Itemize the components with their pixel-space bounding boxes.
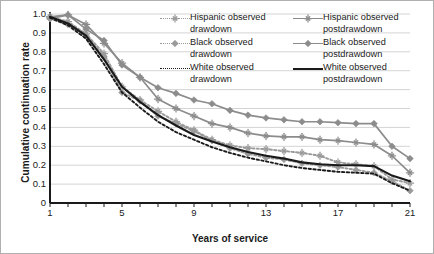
legend-swatch-white-draw xyxy=(160,63,190,74)
data-point-marker xyxy=(299,118,306,125)
legend-label-white-post: White observedpostdrawdown xyxy=(323,62,387,85)
legend-swatch-black-post xyxy=(293,38,323,49)
legend-label-black-draw: Black observeddrawdown xyxy=(190,37,253,60)
legend-marker-hispanic-draw xyxy=(160,13,190,24)
data-point-marker xyxy=(263,115,270,122)
data-point-marker xyxy=(172,40,179,47)
legend-swatch-black-draw xyxy=(160,38,190,49)
x-axis-title: Years of service xyxy=(50,233,410,244)
x-axis-tick-label: 1 xyxy=(35,208,65,218)
legend-line-white-post xyxy=(293,68,323,70)
data-point-marker xyxy=(353,120,360,127)
legend-item-black-post: Black observedpostdrawdown xyxy=(293,37,428,62)
x-axis-tick-label: 13 xyxy=(251,208,281,218)
legend-label-black-post: Black observedpostdrawdown xyxy=(323,37,386,60)
legend-label-line1: White observed xyxy=(323,62,387,74)
chart-container: Cumulative continuation rate 00.10.20.30… xyxy=(0,0,434,254)
legend-label-line2: postdrawdown xyxy=(323,49,386,61)
legend-label-line2: postdrawdown xyxy=(323,24,399,36)
data-point-marker xyxy=(317,118,324,125)
legend-label-line1: Hispanic observed xyxy=(190,12,266,24)
data-point-marker xyxy=(245,112,252,119)
legend-swatch-hispanic-post xyxy=(293,13,323,24)
legend-item-hispanic-draw: Hispanic observeddrawdown xyxy=(160,12,293,37)
x-axis-tick-label: 9 xyxy=(179,208,209,218)
data-point-marker xyxy=(305,40,312,47)
legend-label-white-draw: White observeddrawdown xyxy=(190,62,254,85)
x-axis-tick-label: 21 xyxy=(395,208,425,218)
legend-item-black-draw: Black observeddrawdown xyxy=(160,37,293,62)
x-axis-tick-label: 5 xyxy=(107,208,137,218)
data-point-marker xyxy=(173,90,180,97)
data-point-marker xyxy=(281,117,288,124)
legend-swatch-hispanic-draw xyxy=(160,13,190,24)
data-point-marker xyxy=(209,100,216,107)
x-axis-tick-label: 17 xyxy=(323,208,353,218)
legend-line-white-draw xyxy=(160,68,190,69)
legend-swatch-white-post xyxy=(293,63,323,74)
legend-item-hispanic-post: Hispanic observedpostdrawdown xyxy=(293,12,428,37)
data-point-marker xyxy=(191,97,198,104)
legend-item-white-post: White observedpostdrawdown xyxy=(293,62,428,87)
legend-label-line2: drawdown xyxy=(190,74,254,86)
data-point-marker xyxy=(335,119,342,126)
legend-label-line1: Hispanic observed xyxy=(323,12,399,24)
legend-label-line1: Black observed xyxy=(323,37,386,49)
legend-marker-black-draw xyxy=(160,38,190,49)
legend-label-line2: drawdown xyxy=(190,49,253,61)
chart-legend: Hispanic observeddrawdownHispanic observ… xyxy=(160,12,428,90)
legend-label-hispanic-draw: Hispanic observeddrawdown xyxy=(190,12,266,35)
legend-marker-black-post xyxy=(293,38,323,49)
legend-label-line2: drawdown xyxy=(190,24,266,36)
legend-label-hispanic-post: Hispanic observedpostdrawdown xyxy=(323,12,399,35)
legend-label-line2: postdrawdown xyxy=(323,74,387,86)
legend-label-line1: White observed xyxy=(190,62,254,74)
legend-item-white-draw: White observeddrawdown xyxy=(160,62,293,87)
legend-label-line1: Black observed xyxy=(190,37,253,49)
legend-marker-hispanic-post xyxy=(293,13,323,24)
